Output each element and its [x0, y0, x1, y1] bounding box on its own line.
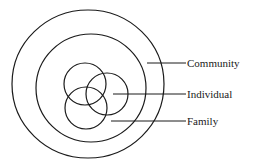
- nested-circles-diagram: Community Individual Family: [0, 0, 256, 165]
- individual-label: Individual: [187, 88, 232, 100]
- family-label: Family: [187, 115, 219, 127]
- community-label: Community: [187, 57, 240, 69]
- individual-circle-top-left: [64, 63, 106, 105]
